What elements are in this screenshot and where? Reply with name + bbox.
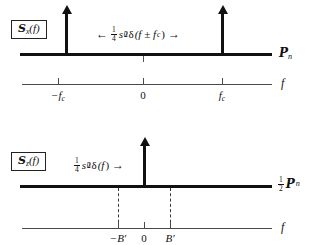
delta-symbol: δ [129, 29, 134, 40]
panel-top-expression: 1 4 s20δ(f ± fc) [111, 26, 165, 43]
panel-bottom-tick-positive-b [170, 222, 171, 228]
panel-top-label-script: S [18, 22, 26, 35]
level-label-script: P [279, 46, 288, 60]
panel-bottom-expression: 1 4 s20δ(f) [74, 157, 109, 174]
panel-top-label-box: Sx(f) [11, 20, 47, 39]
fraction-one-quarter-bottom: 1 4 [74, 157, 80, 174]
annotation-left-arrow-icon: ← [96, 28, 108, 40]
panel-top-tick-zero [143, 78, 144, 84]
panel-top-label-argument: (f) [29, 22, 39, 34]
level-label-subscript: n [288, 52, 292, 61]
panel-top-tick-label-positive-fc: fc [219, 90, 225, 102]
delta-argument-close: ) [161, 29, 165, 40]
panel-top-annotation: ← 1 4 s20δ(f ± fc) → [96, 26, 180, 43]
amplitude-symbol: s [82, 160, 86, 171]
panel-bottom-tick-label-negative-b: −B′ [110, 233, 127, 244]
psd-figure: Sx(f) ← 1 4 s20δ(f ± fc) → Pn f [0, 0, 310, 245]
panel-bottom-level-label: 1 2 Pn [278, 176, 300, 193]
delta-argument-close: ) [105, 160, 109, 171]
panel-bottom-frequency-axis [22, 228, 272, 229]
panel-bottom-tick-zero [144, 222, 145, 228]
fraction-numerator: 1 [74, 157, 80, 165]
panel-top-frequency-axis [22, 84, 272, 85]
fraction-denominator: 4 [74, 165, 80, 174]
level-label-script: P [286, 178, 295, 190]
amplitude-symbol: s [119, 29, 123, 40]
fraction-one-quarter: 1 4 [111, 26, 117, 43]
annotation-right-arrow-icon: → [112, 159, 124, 171]
panel-top-tick-positive-fc [222, 78, 223, 84]
impulse-positive-fc [221, 13, 224, 55]
impulse-zero [143, 145, 146, 187]
panel-bottom-frequency-axis-name: f [281, 221, 284, 233]
panel-bottom-tick-label-positive-b: B′ [165, 233, 174, 244]
impulse-negative-fc [65, 13, 68, 55]
fraction-denominator: 4 [111, 34, 117, 43]
panel-top-level-label: Pn [279, 47, 292, 61]
panel-top-origin-tick [143, 56, 144, 62]
fraction-numerator: 1 [278, 176, 284, 184]
delta-symbol: δ [92, 160, 97, 171]
panel-bottom-annotation: 1 4 s20δ(f) → [74, 157, 124, 174]
panel-bottom-label-script: S [18, 154, 26, 167]
delta-argument: (f ± f [135, 29, 156, 40]
delta-argument-subscript: c [157, 31, 160, 38]
panel-top-tick-label-zero: 0 [140, 90, 146, 101]
fraction-numerator: 1 [111, 26, 117, 34]
panel-top-frequency-axis-name: f [281, 77, 284, 89]
panel-bottom-tick-negative-b [118, 222, 119, 228]
panel-bottom-tick-label-zero: 0 [141, 233, 147, 244]
annotation-right-arrow-icon: → [168, 28, 180, 40]
panel-bottom-power-axis [20, 185, 272, 188]
amplitude-subscript: 0 [124, 31, 128, 38]
panel-top-power-axis [20, 53, 272, 56]
fraction-denominator: 2 [278, 184, 284, 193]
panel-bottom-label-box: Sz(f) [11, 152, 46, 171]
fraction-one-half: 1 2 [278, 176, 284, 193]
panel-top-tick-negative-fc [58, 78, 59, 84]
level-label-subscript: n [296, 180, 300, 188]
amplitude-subscript: 0 [87, 162, 91, 169]
panel-bottom-label-argument: (f) [29, 154, 39, 166]
panel-top-tick-label-negative-fc: −fc [51, 90, 65, 102]
delta-argument: (f [98, 160, 105, 171]
